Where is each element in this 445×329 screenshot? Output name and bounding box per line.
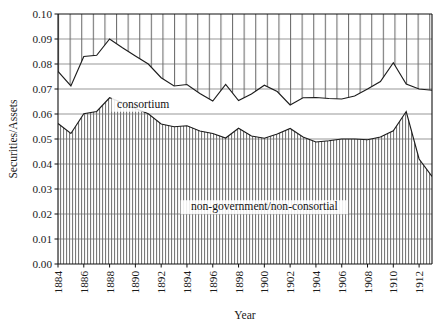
- x-tick-label: 1898: [233, 271, 245, 294]
- y-axis-title: Securities/Assets: [7, 99, 20, 179]
- x-tick-label: 1894: [181, 271, 193, 294]
- x-tick-label: 1888: [104, 271, 116, 294]
- y-tick-label: 0.10: [32, 8, 52, 20]
- y-tick-label: 0.01: [32, 233, 52, 245]
- y-tick-label: 0.07: [32, 83, 52, 95]
- y-tick-label: 0.08: [32, 58, 52, 70]
- x-tick-label: 1902: [284, 271, 296, 293]
- y-tick-label: 0.03: [32, 183, 52, 195]
- y-tick-label: 0.04: [32, 158, 52, 170]
- x-tick-label: 1900: [258, 271, 270, 294]
- x-axis-title: Year: [234, 309, 256, 322]
- y-tick-label: 0.09: [32, 33, 52, 45]
- series-annotation-consortium: consortium: [117, 98, 169, 111]
- chart-figure: 0.000.010.020.030.040.050.060.070.080.09…: [0, 0, 445, 329]
- x-tick-label: 1896: [207, 271, 219, 294]
- x-tick-label: 1890: [129, 271, 141, 294]
- x-tick-label: 1892: [155, 271, 167, 293]
- y-tick-label: 0.02: [32, 208, 52, 220]
- x-tick-label: 1906: [336, 271, 348, 294]
- y-axis-tick-labels: 0.000.010.020.030.040.050.060.070.080.09…: [32, 8, 52, 270]
- x-axis-tick-labels: 1884188618881890189218941896189819001902…: [52, 271, 425, 294]
- x-tick-label: 1912: [413, 271, 425, 293]
- series-annotation-non-government: non-government/non-consortial: [191, 200, 338, 213]
- x-tick-label: 1908: [362, 271, 374, 294]
- y-tick-label: 0.05: [32, 133, 52, 145]
- x-tick-label: 1884: [52, 271, 64, 294]
- x-tick-label: 1904: [310, 271, 322, 294]
- y-tick-label: 0.06: [32, 108, 52, 120]
- x-tick-label: 1910: [387, 271, 399, 294]
- y-tick-label: 0.00: [32, 258, 52, 270]
- x-tick-label: 1886: [78, 271, 90, 294]
- securities-assets-area-chart: 0.000.010.020.030.040.050.060.070.080.09…: [0, 0, 445, 329]
